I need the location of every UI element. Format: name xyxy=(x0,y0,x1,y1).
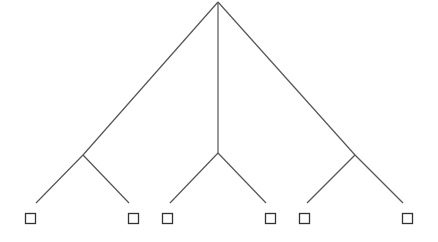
tree-edge xyxy=(307,155,355,203)
tree-edge xyxy=(36,155,83,203)
leaf-node-square xyxy=(266,214,276,224)
tree-edge xyxy=(170,153,218,203)
leaf-node-square xyxy=(403,214,413,224)
leaf-node-square xyxy=(163,214,173,224)
leaf-node-square xyxy=(26,214,36,224)
tree-edge xyxy=(218,2,355,155)
tree-leaves xyxy=(26,214,413,224)
tree-edges xyxy=(36,2,403,203)
leaf-node-square xyxy=(300,214,310,224)
tree-edge xyxy=(83,155,129,203)
leaf-node-square xyxy=(129,214,139,224)
tree-edge xyxy=(218,153,266,203)
tree-edge xyxy=(83,2,218,155)
tree-edge xyxy=(355,155,403,203)
tree-diagram xyxy=(0,0,438,242)
